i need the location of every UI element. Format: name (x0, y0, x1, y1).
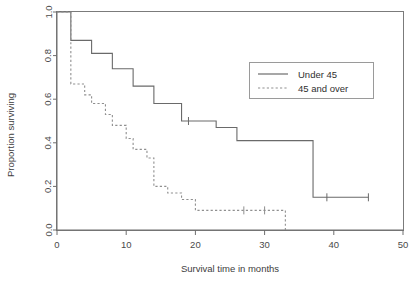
x-tick-label: 50 (398, 239, 409, 250)
y-axis-title: Proportion surviving (5, 93, 16, 177)
x-tick-label: 40 (329, 239, 340, 250)
y-tick-label: 0.2 (43, 180, 54, 193)
chart-background (0, 0, 410, 284)
x-axis-title: Survival time in months (181, 263, 279, 274)
legend-label-45-and-over: 45 and over (298, 83, 348, 94)
y-tick-label: 1.0 (43, 5, 54, 18)
y-tick-label: 0.0 (43, 223, 54, 236)
legend: Under 45 45 and over (250, 63, 374, 99)
y-tick-label: 0.4 (43, 136, 54, 149)
chart-svg: 0.00.20.40.60.81.0 01020304050 Survival … (0, 0, 410, 284)
x-tick-label: 20 (190, 239, 201, 250)
x-tick-label: 30 (259, 239, 270, 250)
survival-chart: 0.00.20.40.60.81.0 01020304050 Survival … (0, 0, 410, 284)
x-tick-label: 10 (121, 239, 132, 250)
x-tick-label: 0 (54, 239, 59, 250)
y-tick-label: 0.8 (43, 49, 54, 62)
y-tick-label: 0.6 (43, 93, 54, 106)
legend-label-under-45: Under 45 (298, 69, 337, 80)
